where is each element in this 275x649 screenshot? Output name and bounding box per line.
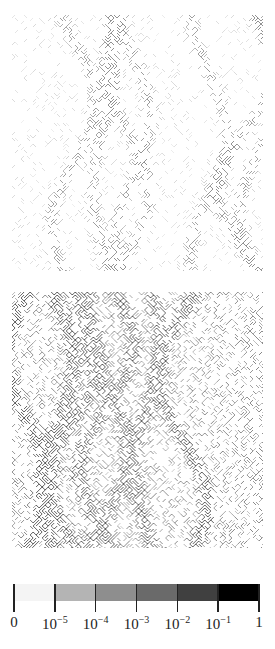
colorbar-segment bbox=[177, 584, 218, 601]
colorbar-tick-label: 1 bbox=[255, 614, 263, 631]
colorbar-tick-label: 0 bbox=[10, 614, 18, 631]
colorbar-tick bbox=[136, 584, 138, 612]
lattice-canvas-bottom bbox=[12, 292, 263, 548]
colorbar-tick bbox=[54, 584, 56, 612]
colorbar-tick-label: 10−3 bbox=[124, 614, 150, 633]
colorbar-tick bbox=[95, 584, 97, 612]
colorbar-tick-label: 10−5 bbox=[42, 614, 68, 633]
colorbar-tick bbox=[258, 584, 260, 612]
colorbar-tick bbox=[217, 584, 219, 612]
lattice-panel-bottom bbox=[12, 292, 263, 548]
colorbar-segment bbox=[55, 584, 96, 601]
colorbar-tick bbox=[13, 584, 15, 612]
colorbar-segment bbox=[218, 584, 259, 601]
colorbar-tick bbox=[177, 584, 179, 612]
colorbar-tick-label: 10−4 bbox=[83, 614, 109, 633]
colorbar-tick-label: 10−1 bbox=[205, 614, 231, 633]
colorbar-tick-label: 10−2 bbox=[165, 614, 191, 633]
colorbar-segment bbox=[96, 584, 137, 601]
lattice-canvas-top bbox=[12, 15, 263, 271]
colorbar-segment bbox=[14, 584, 55, 601]
lattice-panel-top bbox=[12, 15, 263, 271]
colorbar-segment bbox=[136, 584, 177, 601]
